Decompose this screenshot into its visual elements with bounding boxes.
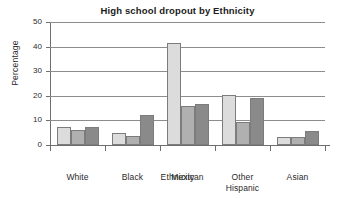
bar: [126, 136, 140, 145]
bar: [167, 43, 181, 145]
x-tick-label-line: Asian: [260, 172, 336, 183]
bar-group: [112, 22, 154, 145]
bar: [195, 104, 209, 145]
y-tick-label-10: 10: [16, 115, 42, 124]
bar: [250, 98, 264, 145]
bar: [71, 130, 85, 145]
bar: [85, 127, 99, 145]
bar: [305, 131, 319, 146]
y-tick-mark-40: [46, 47, 50, 48]
x-tick-label-line: Hispanic: [205, 183, 281, 194]
y-tick-mark-20: [46, 96, 50, 97]
plot-area: 01020304050 WhiteBlackMexicanOtherHispan…: [50, 22, 325, 146]
bar: [140, 115, 154, 145]
chart-figure: High school dropout by Ethnicity Percent…: [0, 0, 355, 198]
y-tick-mark-50: [46, 22, 50, 23]
bar-group: [57, 22, 99, 145]
x-tick-mark: [50, 146, 51, 151]
bar: [222, 95, 236, 145]
bar: [112, 133, 126, 145]
bar-group: [277, 22, 319, 145]
y-tick-label-50: 50: [16, 17, 42, 26]
bar: [181, 106, 195, 145]
y-tick-label-20: 20: [16, 91, 42, 100]
x-tick-mark: [105, 146, 106, 151]
y-tick-label-40: 40: [16, 42, 42, 51]
x-tick-mark: [325, 146, 326, 151]
bar: [236, 122, 250, 145]
y-tick-mark-10: [46, 120, 50, 121]
y-tick-label-0: 0: [16, 140, 42, 149]
y-axis-label: Percentage: [10, 28, 20, 98]
x-tick-label-asian: Asian: [260, 172, 336, 183]
y-axis-line: [50, 22, 51, 146]
bar: [291, 137, 305, 145]
y-tick-label-30: 30: [16, 66, 42, 75]
x-tick-mark: [215, 146, 216, 151]
x-axis-line: [50, 145, 330, 146]
x-tick-mark: [160, 146, 161, 151]
y-tick-mark-30: [46, 71, 50, 72]
bar-group: [167, 22, 209, 145]
x-tick-mark: [270, 146, 271, 151]
bar: [277, 137, 291, 145]
bar-group: [222, 22, 264, 145]
bar: [57, 127, 71, 145]
chart-title: High school dropout by Ethnicity: [0, 5, 355, 16]
